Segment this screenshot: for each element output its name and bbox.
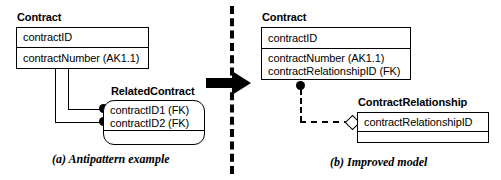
entity-title-contract-left: Contract: [17, 11, 61, 23]
attribute-contract-relationship-id-fk: contractRelationshipID (FK): [268, 65, 410, 78]
attribute-contract-id-1-fk: contractID1 (FK): [110, 104, 204, 117]
entity-attr-compartment-relatedcontract: [104, 131, 204, 144]
attribute-contract-id: contractID: [23, 31, 148, 44]
entity-box-contract-right: contractID contractNumber (AK1.1) contra…: [261, 27, 411, 80]
entity-box-relatedcontract: contractID1 (FK) contractID2 (FK): [103, 100, 205, 145]
attribute-contract-id-2-fk: contractID2 (FK): [110, 117, 204, 130]
entity-key-compartment-contract-right: contractID: [262, 28, 410, 49]
entity-attr-compartment-contract-left: contractNumber (AK1.1): [17, 48, 148, 69]
entity-title-contract-right: Contract: [262, 11, 306, 23]
relationship-dashed-vertical: [300, 89, 302, 122]
relationship-line-1-horizontal: [55, 122, 105, 123]
entity-box-contractrelationship: contractRelationshipID: [357, 112, 489, 143]
entity-key-compartment-contractrelationship: contractRelationshipID: [358, 113, 488, 132]
relationship-line-2-vertical: [68, 69, 69, 109]
entity-box-contract-left: contractID contractNumber (AK1.1): [16, 27, 149, 69]
attribute-contract-number-right: contractNumber (AK1.1): [268, 52, 410, 65]
entity-title-contractrelationship: ContractRelationship: [358, 96, 467, 108]
entity-title-relatedcontract: RelatedContract: [111, 85, 194, 97]
attribute-contract-number: contractNumber (AK1.1): [23, 52, 148, 65]
attribute-contract-id-right: contractID: [268, 32, 410, 45]
er-diagram-figure: Contract contractID contractNumber (AK1.…: [0, 0, 501, 180]
relationship-line-1-vertical: [55, 69, 56, 122]
caption-improved-model: (b) Improved model: [330, 155, 427, 170]
entity-key-compartment-contract-left: contractID: [17, 28, 148, 48]
entity-attr-compartment-contractrelationship: [358, 132, 488, 143]
right-arrow-icon: [206, 70, 252, 100]
entity-attr-compartment-contract-right: contractNumber (AK1.1) contractRelations…: [262, 49, 410, 79]
relationship-dashed-horizontal: [300, 121, 350, 123]
attribute-contract-relationship-id: contractRelationshipID: [364, 116, 488, 129]
caption-antipattern: (a) Antipattern example: [52, 152, 170, 167]
entity-key-compartment-relatedcontract: contractID1 (FK) contractID2 (FK): [104, 101, 204, 131]
